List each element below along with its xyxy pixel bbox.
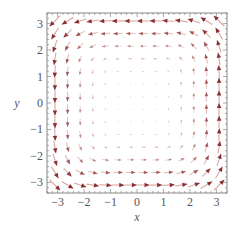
arrow-head <box>66 110 70 114</box>
arrow-head <box>127 45 130 48</box>
arrow-head <box>118 171 122 175</box>
arrow-head <box>52 47 56 52</box>
arrow-head <box>192 93 195 96</box>
arrow-head <box>53 148 57 153</box>
arrow-head <box>103 58 105 60</box>
y-tick-label: 2 <box>37 43 43 57</box>
arrow-head <box>137 19 142 23</box>
arrow-head <box>115 45 118 48</box>
arrow-head <box>112 19 117 23</box>
y-tick-label: 1 <box>37 70 43 84</box>
arrow-head <box>144 158 147 161</box>
arrow-head <box>205 117 209 121</box>
vector-field-plot: −3−2−10123 −3−2−10123 x y <box>0 0 240 232</box>
arrow-head <box>157 183 162 187</box>
arrow-head <box>53 160 57 165</box>
y-tick-label: −2 <box>30 149 43 163</box>
arrow-head <box>168 146 170 148</box>
axis-ticks <box>47 13 227 193</box>
arrow-head <box>131 171 135 175</box>
arrow-head <box>132 183 137 188</box>
arrow-head <box>99 19 104 23</box>
arrow-head <box>205 105 209 109</box>
x-axis-label: x <box>133 210 140 224</box>
arrow-head <box>162 19 167 23</box>
arrow-head <box>217 128 221 133</box>
y-tick-label: 0 <box>37 96 43 110</box>
arrow-head <box>79 97 82 100</box>
arrow-head <box>53 73 57 78</box>
arrow-head <box>145 183 150 188</box>
arrow-head <box>217 116 221 121</box>
arrow-head <box>166 58 168 60</box>
y-tick-label: 3 <box>37 17 43 31</box>
arrow-head <box>79 84 82 87</box>
arrow-head <box>53 60 57 65</box>
arrow-head <box>107 183 112 187</box>
arrow-head <box>113 32 117 36</box>
arrow-head <box>180 107 182 109</box>
arrow-head <box>92 110 94 112</box>
x-tick-label: −1 <box>104 195 117 209</box>
arrow-head <box>139 32 143 36</box>
y-axis-label: y <box>13 96 20 110</box>
arrow-head <box>217 90 222 95</box>
arrow-head <box>118 158 121 161</box>
arrow-head <box>79 110 82 113</box>
arrow-head <box>194 182 199 186</box>
arrow-head <box>131 158 134 161</box>
arrow-head <box>192 106 195 109</box>
arrow-head <box>175 19 180 23</box>
arrow-head <box>53 111 58 116</box>
arrow-head <box>66 84 70 88</box>
arrow-head <box>53 123 57 128</box>
arrow-head <box>217 65 221 70</box>
arrow-head <box>131 146 133 148</box>
arrow-head <box>79 122 82 125</box>
arrow-head <box>170 183 175 187</box>
arrow-head <box>92 97 94 99</box>
x-tick-label: −2 <box>78 195 91 209</box>
arrow-head <box>124 19 129 23</box>
x-tick-labels: −3−2−10123 <box>51 195 219 209</box>
x-tick-label: 2 <box>187 195 193 209</box>
arrow-head <box>180 69 182 71</box>
arrow-head <box>105 146 107 148</box>
arrow-head <box>53 136 57 141</box>
arrow-head <box>180 132 182 134</box>
arrow-head <box>192 81 195 84</box>
arrow-head <box>156 171 160 175</box>
arrow-head <box>53 98 58 103</box>
arrow-head <box>182 183 187 187</box>
arrow-head <box>87 19 92 23</box>
x-tick-label: 3 <box>213 195 219 209</box>
arrow-head <box>92 71 94 73</box>
arrow-head <box>81 183 86 187</box>
arrow-head <box>188 18 193 22</box>
arrow-head <box>144 171 148 175</box>
vector-arrows <box>50 16 225 191</box>
arrow-head <box>66 97 70 101</box>
arrow-head <box>150 19 155 23</box>
arrow-head <box>205 92 209 96</box>
plot-frame <box>47 13 227 193</box>
arrow-head <box>216 40 220 45</box>
arrow-head <box>217 141 221 146</box>
arrow-head <box>217 103 222 108</box>
arrow-head <box>192 119 195 122</box>
arrow-head <box>94 183 99 187</box>
arrow-head <box>119 183 124 187</box>
arrow-head <box>217 53 221 58</box>
arrow-head <box>180 94 182 96</box>
y-tick-labels: −3−2−10123 <box>30 17 43 190</box>
y-tick-label: −1 <box>30 122 43 136</box>
arrow-head <box>74 19 79 23</box>
arrow-head <box>92 134 94 136</box>
arrow-head <box>205 79 209 83</box>
x-tick-label: 1 <box>160 195 166 209</box>
arrow-head <box>141 58 143 60</box>
x-tick-label: 0 <box>134 195 140 209</box>
arrow-head <box>126 32 130 36</box>
x-tick-label: −3 <box>51 195 64 209</box>
y-tick-label: −3 <box>30 175 43 189</box>
